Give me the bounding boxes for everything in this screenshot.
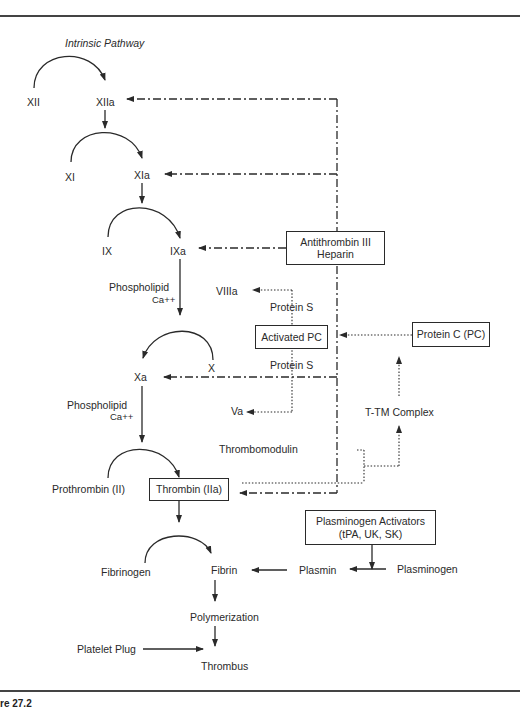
plasminogen-activators-label: Plasminogen Activators [316, 515, 425, 528]
node-plasminogen-activators: Plasminogen Activators (tPA, UK, SK) [305, 510, 436, 545]
node-va: Va [231, 405, 243, 417]
arc-xi-xia [71, 133, 142, 162]
node-fibrinogen: Fibrinogen [101, 566, 151, 578]
heparin-label: Heparin [317, 248, 354, 261]
connectors-layer [0, 0, 520, 707]
node-viiia: VIIIa [216, 285, 238, 297]
node-polymerization: Polymerization [190, 611, 259, 623]
thrombin-label: Thrombin (IIa) [156, 483, 222, 496]
antithrombin-label: Antithrombin III [300, 236, 371, 249]
node-thrombin: Thrombin (IIa) [149, 478, 229, 501]
node-xiia: XIIa [96, 96, 115, 108]
node-activated-pc: Activated PC [255, 325, 328, 349]
label-ca-2: Ca++ [110, 411, 133, 423]
node-xia: XIa [134, 169, 150, 181]
activated-pc-label: Activated PC [261, 331, 322, 344]
label-phospholipid-1: Phospholipid [109, 281, 169, 293]
node-fibrin: Fibrin [211, 564, 237, 576]
node-xii: XII [27, 96, 40, 108]
node-xa: Xa [134, 371, 147, 383]
coagulation-cascade-diagram: Intrinsic Pathway XII XIIa XI XIa IX IXa… [0, 0, 520, 707]
node-plasmin: Plasmin [299, 564, 336, 576]
node-prothrombin: Prothrombin (II) [52, 483, 125, 495]
node-platelet-plug: Platelet Plug [77, 643, 136, 655]
node-ix: IX [102, 245, 112, 257]
arc-x-xa [143, 331, 213, 360]
label-protein-s-bottom: Protein S [270, 359, 313, 371]
arc-fibrinogen-fibrin [145, 536, 211, 563]
label-ca-1: Ca++ [152, 294, 175, 306]
plasminogen-activators-examples: (tPA, UK, SK) [339, 528, 402, 541]
arc-xii-xiia [34, 56, 105, 88]
node-thrombomodulin: Thrombomodulin [219, 443, 298, 455]
node-protein-c: Protein C (PC) [412, 322, 490, 347]
node-x: X [208, 362, 215, 374]
node-xi: XI [65, 171, 75, 183]
arc-ix-ixa [108, 208, 180, 238]
node-antithrombin-heparin: Antithrombin III Heparin [286, 231, 385, 265]
node-ixa: IXa [170, 245, 186, 257]
node-plasminogen: Plasminogen [397, 563, 458, 575]
protein-c-label: Protein C (PC) [417, 328, 485, 341]
figure-caption: re 27.2 [0, 698, 32, 707]
label-protein-s-top: Protein S [270, 301, 313, 313]
pathway-title: Intrinsic Pathway [65, 37, 144, 49]
arc-prothrombin-thrombin [108, 449, 179, 478]
node-ttm-complex: T-TM Complex [365, 406, 434, 418]
node-thrombus: Thrombus [201, 660, 248, 672]
label-phospholipid-2: Phospholipid [67, 399, 127, 411]
